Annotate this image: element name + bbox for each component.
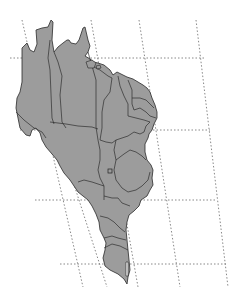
coastal-island bbox=[96, 65, 101, 69]
marajo-island bbox=[86, 60, 96, 68]
meridian-line bbox=[196, 20, 228, 287]
lagoon bbox=[126, 262, 128, 276]
brazil-map bbox=[0, 0, 240, 300]
